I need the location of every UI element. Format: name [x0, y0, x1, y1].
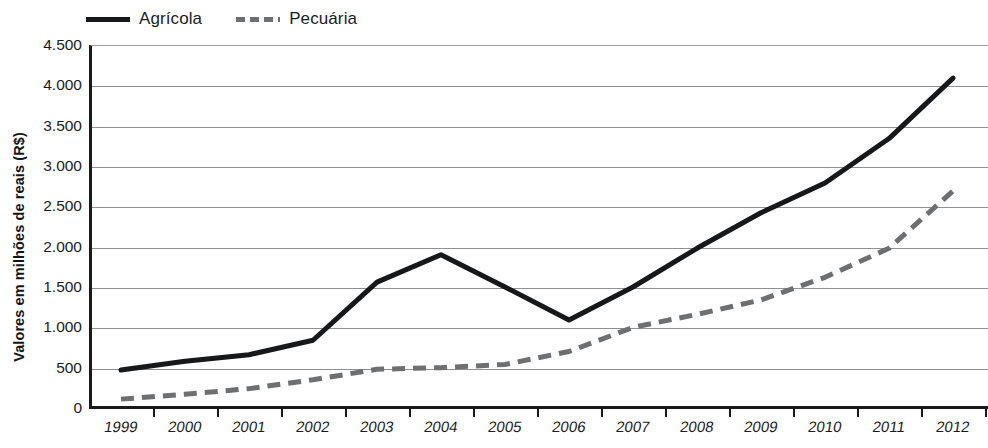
x-axis-tick-label: 2007 [615, 418, 651, 435]
x-axis-tick-label: 2010 [807, 418, 843, 435]
y-axis-tick-label: 2.500 [26, 197, 82, 215]
x-axis-tick [153, 409, 155, 417]
x-axis-tick [921, 409, 923, 417]
plot-area [89, 45, 988, 409]
y-axis-tick-label: 2.000 [26, 238, 82, 256]
x-axis-tick [281, 409, 283, 417]
x-axis-tick-label: 2009 [743, 418, 779, 435]
x-axis-tick [537, 409, 539, 417]
y-axis-tick-label: 1.500 [26, 278, 82, 296]
legend-swatch-dashed-line-icon [236, 17, 280, 22]
x-axis-tick [601, 409, 603, 417]
gridline [92, 86, 988, 87]
legend-item-agricola[interactable]: Agrícola [86, 9, 202, 29]
x-axis-tick [729, 409, 731, 417]
x-axis-tick [473, 409, 475, 417]
gridline [92, 369, 988, 370]
gridline [92, 167, 988, 168]
y-axis-tick-label: 3.500 [26, 117, 82, 135]
x-axis-tick [665, 409, 667, 417]
x-axis-tick [409, 409, 411, 417]
y-axis-tick-label: 500 [26, 359, 82, 377]
legend-label-agricola: Agrícola [139, 9, 202, 29]
x-axis-tick-label: 2012 [935, 418, 971, 435]
x-axis-tick-label: 2001 [231, 418, 267, 435]
x-axis-tick-label: 1999 [103, 418, 139, 435]
x-axis-tick-label: 2011 [872, 418, 907, 435]
gridline [92, 288, 988, 289]
y-axis-tick-labels: 05001.0001.5002.0002.5003.0003.5004.0004… [26, 0, 82, 448]
y-axis-tick-label: 0 [26, 399, 82, 417]
x-axis-tick-label: 2005 [487, 418, 523, 435]
x-axis-tick [345, 409, 347, 417]
legend-swatch-solid-line-icon [86, 17, 130, 22]
x-axis-tick-label: 2000 [167, 418, 203, 435]
x-axis-tick-label: 2002 [295, 418, 331, 435]
y-axis-tick-label: 4.000 [26, 76, 82, 94]
x-axis-tick-label: 2003 [359, 418, 395, 435]
y-axis-tick-label: 1.000 [26, 318, 82, 336]
y-axis-tick-label: 4.500 [26, 36, 82, 54]
y-axis-tick-label: 3.000 [26, 157, 82, 175]
x-axis-tick-label: 2006 [551, 418, 587, 435]
gridline [92, 328, 988, 329]
x-axis-tick-label: 2008 [679, 418, 715, 435]
x-axis-tick [857, 409, 859, 417]
gridline [92, 248, 988, 249]
gridline [92, 207, 988, 208]
line-chart: Agrícola Pecuária Valores em milhões de … [0, 0, 988, 448]
x-axis-tick [985, 409, 987, 417]
x-axis-tick [793, 409, 795, 417]
x-axis-tick [217, 409, 219, 417]
legend-item-pecuaria[interactable]: Pecuária [236, 9, 357, 29]
chart-legend: Agrícola Pecuária [86, 6, 357, 32]
x-axis-tick-label: 2004 [423, 418, 459, 435]
legend-label-pecuaria: Pecuária [289, 9, 357, 29]
gridline [92, 127, 988, 128]
